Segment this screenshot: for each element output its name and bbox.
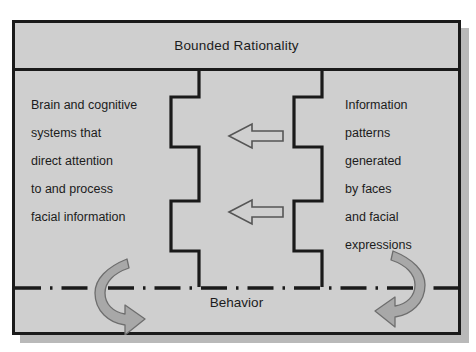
brain-and-cognitive-systems-text: Brain and cognitive systems that direct … [31, 91, 199, 231]
lower-leftward-arrow [229, 200, 283, 224]
left-text-line: facial information [31, 203, 199, 231]
left-text-line: to and process [31, 175, 199, 203]
right-puzzle-edge [294, 71, 322, 287]
left-text-line: systems that [31, 119, 199, 147]
behavior-label: Behavior [15, 295, 458, 310]
right-text-line: and facial [345, 203, 455, 231]
left-text-line: Brain and cognitive [31, 91, 199, 119]
left-text-line: direct attention [31, 147, 199, 175]
right-text-line: Information [345, 91, 455, 119]
information-patterns-text: Information patterns generated by faces … [345, 91, 455, 259]
diagram-canvas: Bounded Rationality [0, 0, 476, 352]
bounded-rationality-panel: Bounded Rationality [12, 20, 461, 335]
upper-leftward-arrow [229, 124, 283, 148]
bounded-rationality-band: Bounded Rationality [15, 23, 458, 71]
right-text-line: expressions [345, 231, 455, 259]
right-text-line: patterns [345, 119, 455, 147]
right-text-line: generated [345, 147, 455, 175]
diagram-body: Brain and cognitive systems that direct … [15, 71, 458, 332]
page-title: Bounded Rationality [174, 38, 299, 53]
right-feedback-curved-arrow [375, 251, 425, 327]
right-text-line: by faces [345, 175, 455, 203]
